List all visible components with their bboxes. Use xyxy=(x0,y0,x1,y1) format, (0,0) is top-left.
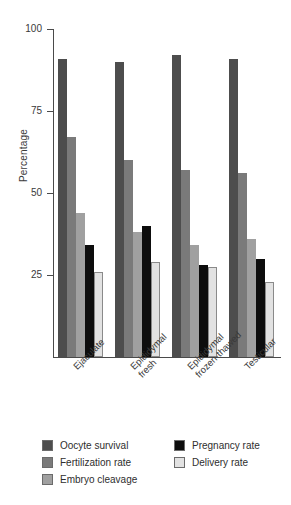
chart-legend: Oocyte survivalFertilization rateEmbryo … xyxy=(42,437,287,488)
legend-label: Pregnancy rate xyxy=(192,440,260,451)
legend-swatch xyxy=(174,457,185,468)
legend-column-left: Oocyte survivalFertilization rateEmbryo … xyxy=(42,437,174,488)
bar xyxy=(238,173,247,357)
legend-label: Oocyte survival xyxy=(60,440,128,451)
legend-label: Delivery rate xyxy=(192,457,248,468)
legend-item: Delivery rate xyxy=(174,454,260,471)
bar xyxy=(181,170,190,357)
bar xyxy=(190,245,199,357)
legend-label: Embryo cleavage xyxy=(60,474,137,485)
legend-item: Embryo cleavage xyxy=(42,471,174,488)
legend-swatch xyxy=(42,440,53,451)
bar-chart-figure: Percentage 100755025 EjaculateEpididymal… xyxy=(0,0,291,505)
bar xyxy=(229,59,238,357)
bar xyxy=(76,213,85,357)
bar xyxy=(115,62,124,357)
bar xyxy=(142,226,151,357)
legend-swatch xyxy=(42,457,53,468)
legend-label: Fertilization rate xyxy=(60,457,131,468)
bar xyxy=(124,160,133,357)
bar xyxy=(58,59,67,357)
y-axis-tick-label: 25 xyxy=(0,269,42,280)
plot-area xyxy=(53,29,281,357)
legend-swatch xyxy=(174,440,185,451)
bar xyxy=(133,232,142,357)
bar xyxy=(67,137,76,357)
legend-item: Pregnancy rate xyxy=(174,437,260,454)
legend-swatch xyxy=(42,474,53,485)
y-axis-tick-label: 75 xyxy=(0,105,42,116)
bar xyxy=(85,245,94,357)
y-axis-tick-label: 50 xyxy=(0,187,42,198)
legend-item: Fertilization rate xyxy=(42,454,174,471)
bar xyxy=(172,55,181,357)
legend-item: Oocyte survival xyxy=(42,437,174,454)
legend-column-right: Pregnancy rateDelivery rate xyxy=(174,437,260,488)
y-axis-tick-label: 100 xyxy=(0,23,42,34)
bar xyxy=(247,239,256,357)
